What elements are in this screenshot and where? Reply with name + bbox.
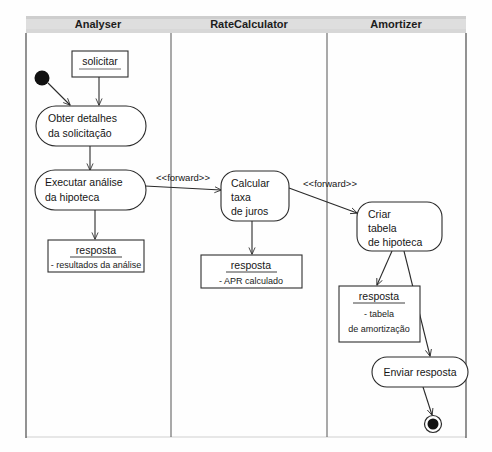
final-node (425, 416, 442, 433)
object-node-solicitar: solicitar (72, 51, 128, 77)
object-node-resposta-apr: resposta - APR calculado (201, 255, 302, 288)
action-enviar-resposta-line1: Enviar resposta (384, 366, 457, 378)
object-node-resposta-apr-attr1: - APR calculado (219, 276, 283, 286)
action-obter-detalhes-line1: Obter detalhes (48, 112, 117, 124)
action-executar-analise-line2: da hipoteca (45, 191, 99, 203)
object-node-resposta-analise: resposta - resultados da análise (48, 240, 144, 272)
swimlane-title-amortizer: Amortizer (370, 18, 422, 30)
edge-criar-to-resposta (377, 251, 392, 285)
action-executar-analise: Executar análise da hipoteca (35, 170, 146, 210)
object-node-resposta-analise-attr1: - resultados da análise (51, 260, 142, 270)
action-criar-tabela: Criar tabela de hipoteca (357, 202, 442, 251)
action-obter-detalhes-line2: da solicitação (48, 127, 112, 139)
edge-start-to-obter (48, 83, 70, 105)
edge-calcular-to-criar (289, 188, 357, 213)
stereotype-forward-2: <<forward>> (303, 178, 357, 189)
swimlane-title-ratecalculator: RateCalculator (210, 18, 288, 30)
object-node-resposta-tabela-attr1: - tabela (364, 309, 394, 319)
object-node-solicitar-title: solicitar (82, 55, 118, 67)
stereotype-forward-1: <<forward>> (156, 172, 210, 183)
action-executar-analise-line1: Executar análise (45, 176, 123, 188)
initial-node (35, 71, 50, 86)
action-calcular-taxa-line1: Calcular (231, 177, 270, 189)
object-node-resposta-apr-title: resposta (231, 259, 271, 271)
diagram-canvas: Analyser RateCalculator Amortizer (0, 0, 492, 452)
action-criar-tabela-line1: Criar (368, 208, 391, 220)
edge-executar-to-calcular (145, 186, 221, 190)
edge-enviar-to-final (423, 387, 432, 415)
object-node-resposta-tabela: resposta - tabela de amortização (339, 286, 420, 342)
action-enviar-resposta: Enviar resposta (372, 357, 468, 387)
action-criar-tabela-line2: tabela (368, 222, 397, 234)
object-node-resposta-tabela-title: resposta (359, 290, 399, 302)
action-calcular-taxa-line3: de juros (231, 205, 268, 217)
swimlane-title-analyser: Analyser (75, 18, 122, 30)
action-obter-detalhes: Obter detalhes da solicitação (36, 106, 146, 146)
activity-diagram: Analyser RateCalculator Amortizer (0, 0, 492, 452)
action-calcular-taxa: Calcular taxa de juros (221, 171, 289, 221)
object-node-resposta-analise-title: resposta (76, 244, 116, 256)
object-node-resposta-tabela-attr2: de amortização (348, 324, 410, 334)
action-calcular-taxa-line2: taxa (231, 191, 251, 203)
action-criar-tabela-line3: de hipoteca (368, 236, 422, 248)
